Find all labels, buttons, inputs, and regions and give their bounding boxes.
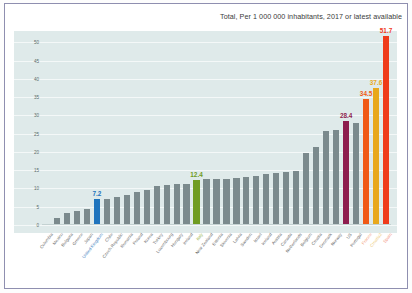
bar[interactable] (203, 179, 209, 225)
bar-slot (42, 31, 52, 225)
bar[interactable] (74, 211, 80, 225)
bar-slot (311, 31, 321, 225)
y-axis-tick: 20 (34, 149, 39, 154)
x-axis-label: Spain (382, 232, 393, 244)
bar[interactable] (94, 199, 100, 225)
bar[interactable] (383, 36, 389, 225)
bar-value-label: 51.7 (380, 27, 392, 34)
y-axis: 05101520253035404550 (14, 31, 42, 233)
bar-slot (351, 31, 361, 225)
bar-slot (62, 31, 72, 225)
x-axis-labels: ColombiaMexicoBulgariaGreeceJapanUnited … (14, 232, 397, 288)
y-axis-tick: 5 (36, 204, 39, 209)
bar-value-label: 7.2 (92, 190, 101, 197)
bar-slot (281, 31, 291, 225)
bar[interactable] (313, 147, 319, 225)
bar-slot: 12.4 (192, 31, 202, 225)
y-axis-tick: 50 (34, 40, 39, 45)
bar[interactable] (273, 173, 279, 225)
bar-slot (122, 31, 132, 225)
y-axis-tick: 15 (34, 168, 39, 173)
bar-slot: 7.2 (92, 31, 102, 225)
bar[interactable] (114, 197, 120, 226)
bar-slot: 51.7 (381, 31, 391, 225)
bar-slot (301, 31, 311, 225)
bar-slot (182, 31, 192, 225)
chart-page: Total, Per 1 000 000 inhabitants, 2017 o… (0, 0, 412, 293)
gridline (14, 225, 397, 226)
bar-slot (291, 31, 301, 225)
bar-slot (321, 31, 331, 225)
bar[interactable] (233, 178, 239, 225)
bar[interactable] (303, 153, 309, 225)
bar-slot: 28.4 (341, 31, 351, 225)
bar-slot (231, 31, 241, 225)
bar-slot (72, 31, 82, 225)
y-axis-tick: 45 (34, 58, 39, 63)
bar-slot (112, 31, 122, 225)
bar-slot (152, 31, 162, 225)
bar[interactable] (333, 130, 339, 225)
bar-slot (172, 31, 182, 225)
bar-slot (251, 31, 261, 225)
bar-slot (331, 31, 341, 225)
bar-series: 7.212.428.434.537.651.7 (42, 31, 391, 225)
bar[interactable] (154, 186, 160, 225)
axis-baseline (42, 224, 391, 225)
bar[interactable] (373, 88, 379, 225)
bar[interactable] (213, 179, 219, 225)
y-axis-tick: 35 (34, 95, 39, 100)
y-axis-tick: 10 (34, 186, 39, 191)
bar-slot (82, 31, 92, 225)
bar-slot (132, 31, 142, 225)
y-axis-tick: 0 (36, 223, 39, 228)
bar-slot (241, 31, 251, 225)
bar-slot: 34.5 (361, 31, 371, 225)
bar[interactable] (263, 174, 269, 225)
bar-slot (271, 31, 281, 225)
bar-slot (162, 31, 172, 225)
y-axis-tick: 40 (34, 76, 39, 81)
bar-slot (202, 31, 212, 225)
bar[interactable] (124, 195, 130, 225)
bar[interactable] (363, 99, 369, 225)
bar-slot (142, 31, 152, 225)
bar-slot (52, 31, 62, 225)
bar[interactable] (193, 180, 199, 225)
bar[interactable] (134, 192, 140, 225)
bar[interactable] (84, 209, 90, 225)
bar-slot (221, 31, 231, 225)
bar[interactable] (253, 176, 259, 225)
bar[interactable] (293, 171, 299, 225)
bar[interactable] (343, 121, 349, 225)
bar[interactable] (104, 199, 110, 225)
plot-area: 05101520253035404550 7.212.428.434.537.6… (14, 31, 397, 233)
bar[interactable] (164, 185, 170, 225)
bar[interactable] (243, 177, 249, 225)
bar[interactable] (183, 184, 189, 225)
y-axis-tick: 30 (34, 113, 39, 118)
bar-slot: 37.6 (371, 31, 381, 225)
chart-title: Total, Per 1 000 000 inhabitants, 2017 o… (220, 12, 402, 21)
y-axis-tick: 25 (34, 131, 39, 136)
bar[interactable] (223, 179, 229, 225)
bar-slot (102, 31, 112, 225)
bar-slot (261, 31, 271, 225)
bar[interactable] (283, 172, 289, 225)
bar[interactable] (144, 190, 150, 225)
bar[interactable] (323, 131, 329, 225)
bar-slot (212, 31, 222, 225)
x-axis-label: US (345, 232, 353, 240)
bar[interactable] (353, 123, 359, 225)
bar[interactable] (174, 184, 180, 225)
